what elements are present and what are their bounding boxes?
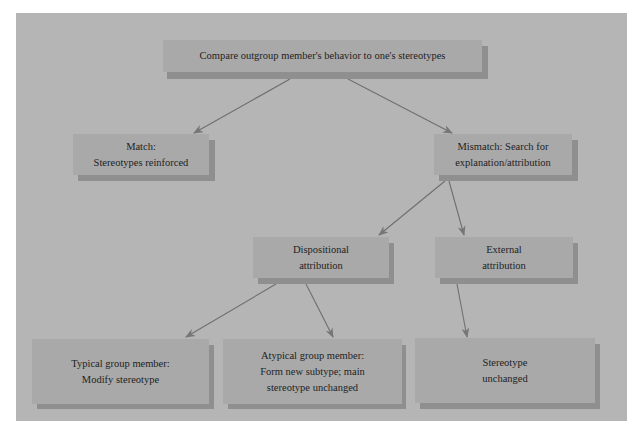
- node-text: attribution: [299, 258, 343, 274]
- node-text: Stereotype: [483, 355, 528, 371]
- node-text: Match:: [126, 139, 156, 155]
- node-dispositional-attribution: Dispositional attribution: [253, 237, 394, 284]
- box-shadow: [572, 140, 578, 181]
- node-match: Match: Stereotypes reinforced: [73, 134, 215, 181]
- node-text: Typical group member:: [71, 356, 169, 372]
- box-face: Atypical group member: Form new subtype;…: [223, 339, 402, 404]
- node-text: External: [486, 242, 522, 258]
- node-text: Compare outgroup member's behavior to on…: [200, 48, 446, 64]
- node-text: Stereotypes reinforced: [94, 155, 189, 171]
- box-shadow: [482, 46, 488, 79]
- box-face: Mismatch: Search for explanation/attribu…: [434, 134, 572, 175]
- node-mismatch: Mismatch: Search for explanation/attribu…: [434, 134, 578, 181]
- node-atypical-group-member: Atypical group member: Form new subtype;…: [223, 339, 406, 409]
- box-shadow: [440, 278, 578, 284]
- node-text: Form new subtype; main: [260, 364, 365, 380]
- node-text: attribution: [482, 258, 526, 274]
- box-shadow: [402, 345, 406, 409]
- node-compare-behavior: Compare outgroup member's behavior to on…: [163, 40, 488, 79]
- box-shadow: [595, 344, 600, 409]
- box-face: External attribution: [435, 237, 573, 278]
- node-text: Atypical group member:: [261, 348, 364, 364]
- node-text: explanation/attribution: [455, 155, 551, 171]
- box-shadow: [258, 278, 394, 284]
- box-shadow: [439, 175, 578, 181]
- box-face: Stereotype unchanged: [415, 338, 595, 403]
- node-text: unchanged: [482, 371, 527, 387]
- box-shadow: [167, 72, 488, 79]
- box-shadow: [228, 404, 406, 409]
- box-face: Match: Stereotypes reinforced: [73, 134, 209, 175]
- node-external-attribution: External attribution: [435, 237, 578, 284]
- node-text: Mismatch: Search for: [458, 139, 549, 155]
- box-shadow: [573, 243, 578, 284]
- node-text: Dispositional: [293, 242, 349, 258]
- box-face: Compare outgroup member's behavior to on…: [163, 40, 482, 72]
- box-shadow: [78, 175, 215, 181]
- box-shadow: [209, 140, 215, 181]
- node-text: stereotype unchanged: [267, 380, 358, 396]
- box-face: Typical group member: Modify stereotype: [32, 339, 209, 404]
- box-face: Dispositional attribution: [253, 237, 389, 278]
- node-stereotype-unchanged: Stereotype unchanged: [415, 338, 600, 409]
- node-typical-group-member: Typical group member: Modify stereotype: [32, 339, 214, 409]
- box-shadow: [420, 403, 600, 409]
- box-shadow: [209, 345, 214, 409]
- box-shadow: [389, 243, 394, 284]
- box-shadow: [37, 404, 214, 409]
- node-text: Modify stereotype: [82, 372, 159, 388]
